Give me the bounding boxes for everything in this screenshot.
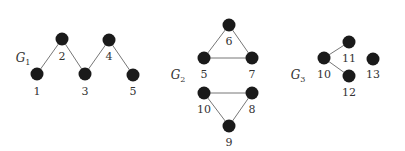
node-9: [223, 120, 236, 133]
node-5: [127, 69, 140, 82]
node-label-3: 3: [82, 85, 89, 98]
node-2: [56, 33, 69, 46]
graph-label-subscript: 2: [180, 75, 185, 84]
node-7: [246, 52, 259, 65]
node-13: [367, 53, 380, 66]
node-4: [103, 34, 116, 47]
node-5: [198, 52, 211, 65]
node-label-10: 10: [317, 68, 331, 81]
graph-g1: 12345G1: [16, 33, 140, 99]
node-10: [318, 52, 331, 65]
graph-label-subscript: 1: [25, 58, 30, 67]
graph-label-g2: G2: [171, 68, 186, 84]
node-label-8: 8: [249, 103, 256, 116]
node-label-12: 12: [342, 86, 356, 99]
node-11: [343, 36, 356, 49]
node-10: [198, 87, 211, 100]
graph-label-g1: G1: [16, 51, 31, 67]
graph-label-subscript: 3: [300, 75, 305, 84]
node-12: [343, 70, 356, 83]
node-label-11: 11: [342, 52, 356, 65]
node-label-10: 10: [197, 103, 211, 116]
node-label-1: 1: [34, 85, 41, 98]
node-label-5: 5: [130, 85, 137, 98]
graph-diagram: 12345G16571089G210111213G3: [0, 0, 405, 151]
node-label-5: 5: [201, 68, 208, 81]
node-8: [246, 87, 259, 100]
node-label-6: 6: [226, 35, 233, 48]
node-label-9: 9: [226, 136, 233, 149]
graph-g3: 10111213G3: [291, 36, 380, 100]
graph-label-g3: G3: [291, 68, 306, 84]
node-label-13: 13: [366, 68, 380, 81]
diagram-svg: 12345G16571089G210111213G3: [0, 0, 405, 151]
node-6: [223, 19, 236, 32]
node-label-2: 2: [59, 50, 66, 63]
node-1: [31, 68, 44, 81]
node-3: [79, 68, 92, 81]
node-label-7: 7: [249, 68, 256, 81]
graph-g2: 6571089G2: [171, 19, 259, 150]
node-label-4: 4: [106, 50, 113, 63]
